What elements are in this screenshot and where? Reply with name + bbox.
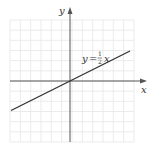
equation-label: y = 1 2 x [81, 50, 110, 65]
eq-x: x [104, 53, 110, 64]
x-axis-label: x [141, 84, 147, 95]
eq-y: y [81, 53, 88, 64]
eq-numerator: 1 [98, 50, 102, 57]
eq-denominator: 2 [98, 58, 102, 65]
y-axis-label: y [58, 5, 65, 16]
coordinate-plane: y x y = 1 2 x [0, 0, 148, 152]
eq-equals: = [89, 53, 97, 64]
y-axis-arrow-icon [68, 7, 73, 14]
x-axis-arrow-icon [140, 79, 147, 84]
